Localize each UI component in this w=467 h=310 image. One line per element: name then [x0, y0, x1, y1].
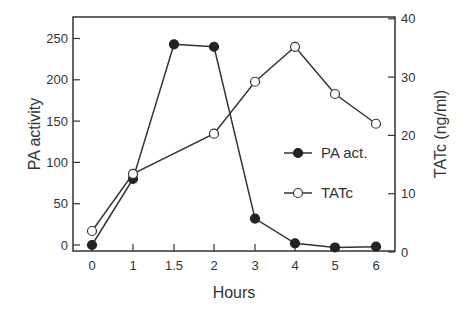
x-tick-label: 1 — [129, 258, 136, 273]
y2-tick-label: 10 — [401, 186, 415, 201]
x-tick-label: 3 — [251, 258, 258, 273]
filled-circle-marker-icon — [210, 42, 219, 51]
open-circle-marker-icon — [372, 119, 381, 128]
chart: 050100150200250 010203040 011.523456 PA … — [0, 0, 467, 310]
right-y-axis: 010203040 — [388, 11, 415, 259]
plot-frame — [73, 17, 395, 251]
series-tatc — [88, 42, 381, 235]
open-circle-marker-icon — [210, 129, 219, 138]
y-tick-label: 50 — [54, 196, 68, 211]
x-tick-label: 0 — [88, 258, 95, 273]
y2-tick-label: 20 — [401, 128, 415, 143]
open-circle-marker-icon — [129, 169, 138, 178]
legend: PA act. TATc — [284, 144, 367, 201]
legend-label: TATc — [321, 184, 353, 201]
y2-axis-title: TATc (ng/ml) — [432, 90, 449, 178]
y2-tick-label: 0 — [401, 245, 408, 260]
open-circle-marker-icon — [291, 42, 300, 51]
filled-circle-marker-icon — [251, 214, 260, 223]
filled-circle-marker-icon — [294, 149, 303, 158]
y-tick-label: 0 — [61, 238, 68, 253]
x-tick-label: 2 — [210, 258, 217, 273]
x-tick-label: 6 — [372, 258, 379, 273]
y-axis-title: PA activity — [26, 98, 43, 171]
y-tick-label: 150 — [46, 114, 68, 129]
legend-label: PA act. — [321, 144, 367, 161]
x-tick-label: 5 — [331, 258, 338, 273]
open-circle-marker-icon — [294, 189, 303, 198]
y2-tick-label: 40 — [401, 11, 415, 26]
filled-circle-marker-icon — [88, 241, 97, 250]
x-tick-label: 4 — [291, 258, 298, 273]
open-circle-marker-icon — [251, 77, 260, 86]
left-y-axis: 050100150200250 — [46, 31, 80, 253]
y-tick-label: 200 — [46, 72, 68, 87]
series-line — [92, 47, 376, 231]
y-tick-label: 100 — [46, 155, 68, 170]
filled-circle-marker-icon — [170, 40, 179, 49]
x-axis-title: Hours — [213, 284, 256, 301]
filled-circle-marker-icon — [331, 243, 340, 252]
filled-circle-marker-icon — [372, 242, 381, 251]
x-tick-label: 1.5 — [165, 258, 183, 273]
legend-item-tatc: TATc — [284, 184, 353, 201]
y2-tick-label: 30 — [401, 70, 415, 85]
filled-circle-marker-icon — [291, 239, 300, 248]
y-tick-label: 250 — [46, 31, 68, 46]
open-circle-marker-icon — [331, 90, 340, 99]
legend-item-pa-act: PA act. — [284, 144, 367, 161]
open-circle-marker-icon — [88, 227, 97, 236]
